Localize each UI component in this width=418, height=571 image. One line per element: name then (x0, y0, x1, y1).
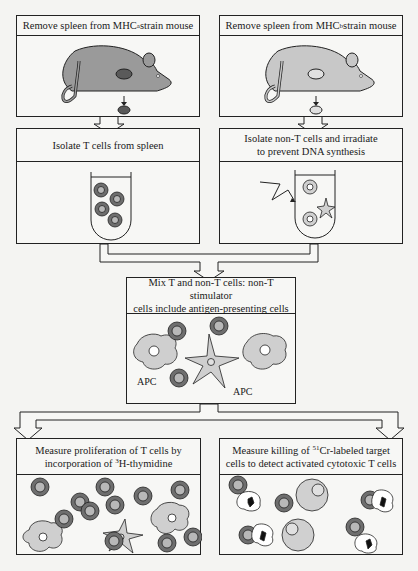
step-remove-spleen-mhc-a: Remove spleen from MHCa strain mouse (16, 15, 200, 117)
apc-label: APC (233, 386, 252, 397)
step-isolate-t-cells: Isolate T cells from spleen (16, 128, 200, 244)
mouse-icon (220, 36, 404, 116)
step-mix-cells: Mix T and non-T cells: non-T stimulator … (126, 277, 296, 404)
test-tube-t-cells-icon (17, 162, 201, 244)
step-measure-killing: Measure killing of 51Cr-labeled target c… (219, 438, 403, 555)
proliferating-t-cells-icon (17, 475, 202, 555)
step-measure-proliferation: Measure proliferation of T cells by inco… (16, 438, 201, 555)
step-isolate-non-t-cells: Isolate non-T cells and irradiate to pre… (219, 128, 403, 244)
step-label: Isolate T cells from spleen (17, 129, 199, 162)
step-label: Mix T and non-T cells: non-T stimulator … (127, 278, 295, 314)
step-label: Measure proliferation of T cells by inco… (17, 439, 200, 475)
apc-label: APC (137, 376, 156, 387)
mouse-icon (17, 36, 201, 116)
radiation-bolt-icon (260, 182, 294, 200)
step-label: Isolate non-T cells and irradiate to pre… (220, 129, 402, 162)
split-arrow-icon (14, 404, 404, 440)
step-label: Remove spleen from MHCb strain mouse (220, 16, 402, 36)
step-label: Remove spleen from MHCa strain mouse (17, 16, 199, 36)
step-label: Measure killing of 51Cr-labeled target c… (220, 439, 402, 475)
cytotoxic-killing-icon (220, 475, 404, 555)
test-tube-irradiation-icon (220, 162, 404, 244)
step-remove-spleen-mhc-b: Remove spleen from MHCb strain mouse (219, 15, 403, 117)
mixed-cells-icon (127, 314, 297, 404)
